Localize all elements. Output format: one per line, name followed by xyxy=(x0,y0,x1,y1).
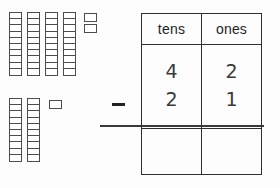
place-value-table: tens ones 4 2 2 1 xyxy=(141,13,262,175)
column-header-tens: tens xyxy=(142,14,202,44)
table-operand-rows: 4 2 2 1 xyxy=(142,45,261,129)
rod-unit xyxy=(28,155,39,161)
table-answer-row xyxy=(142,129,261,174)
minuend-ones-cubes xyxy=(84,13,97,33)
rod-unit xyxy=(64,69,75,75)
subtrahend-tens-rods xyxy=(9,98,45,162)
rod-unit xyxy=(46,69,57,75)
rod-unit xyxy=(28,69,39,75)
worksheet-page: tens ones 4 2 2 1 xyxy=(0,0,280,188)
ten-rod xyxy=(9,12,22,76)
column-header-ones: ones xyxy=(202,14,261,44)
ten-rod xyxy=(9,98,22,162)
one-cube xyxy=(84,13,97,22)
answer-ones-cell[interactable] xyxy=(202,129,261,174)
subtrahend-ones-cubes xyxy=(49,100,62,109)
one-cube xyxy=(84,24,97,33)
ten-rod xyxy=(63,12,76,76)
ten-rod xyxy=(27,98,40,162)
minuend-tens-rods xyxy=(9,12,81,76)
rod-unit xyxy=(10,155,21,161)
minuend-tens-digit: 4 xyxy=(142,62,201,81)
subtrahend-tens-digit: 2 xyxy=(142,90,201,109)
ten-rod xyxy=(45,12,58,76)
rod-unit xyxy=(10,69,21,75)
minus-sign-icon xyxy=(112,103,125,106)
subtrahend-ones-digit: 1 xyxy=(202,90,261,109)
table-header-row: tens ones xyxy=(142,14,261,45)
minuend-ones-digit: 2 xyxy=(202,62,261,81)
one-cube xyxy=(49,100,62,109)
ones-digits-cell: 2 1 xyxy=(202,45,261,128)
answer-tens-cell[interactable] xyxy=(142,129,202,174)
ten-rod xyxy=(27,12,40,76)
tens-digits-cell: 4 2 xyxy=(142,45,202,128)
